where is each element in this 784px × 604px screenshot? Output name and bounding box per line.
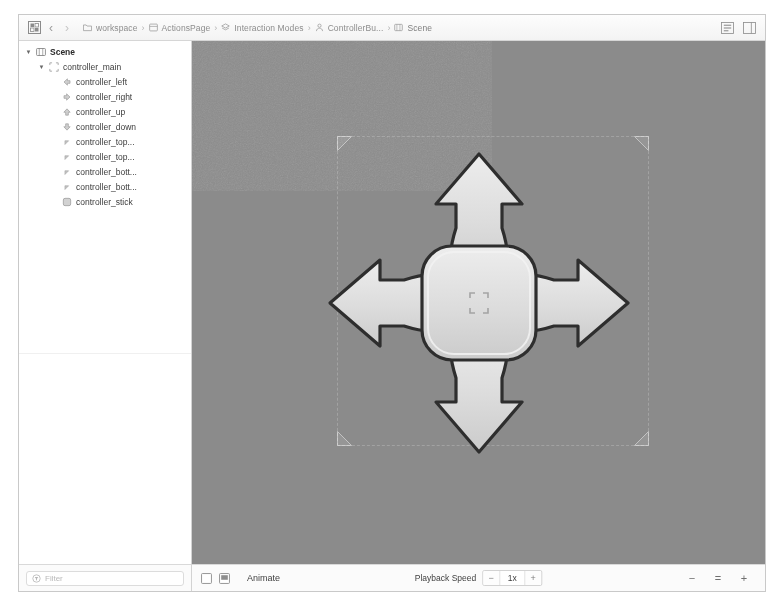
tree-item-label: controller_bott...: [76, 167, 137, 177]
screen-icon[interactable]: [218, 572, 231, 584]
zoom-out-button[interactable]: −: [679, 570, 705, 586]
grid-icon[interactable]: [25, 19, 43, 37]
tree-item-label: controller_left: [76, 77, 127, 87]
playback-speed-control: Playback Speed − 1x +: [415, 570, 542, 586]
editor-body: ▼Scene▼controller_maincontroller_leftcon…: [19, 41, 765, 591]
scene-outliner-sidebar: ▼Scene▼controller_maincontroller_leftcon…: [19, 41, 192, 591]
zoom-in-button[interactable]: +: [731, 570, 757, 586]
breadcrumb-item-actionspage[interactable]: ActionsPage: [149, 23, 211, 33]
corner-shape-icon: [60, 152, 73, 162]
arrow-up-shape-icon: [60, 107, 73, 117]
folder-icon: [83, 23, 93, 33]
corner-shape-icon: [60, 167, 73, 177]
sidebar-footer: Filter: [19, 564, 191, 591]
controller_stick: [422, 246, 536, 360]
package-icon: [149, 23, 159, 33]
top-toolbar-right: [717, 19, 759, 37]
breadcrumb-separator: ›: [307, 23, 312, 33]
filter-circle-icon: [32, 574, 41, 583]
tree-item-label: controller_main: [63, 62, 121, 72]
breadcrumb-item-controller[interactable]: ControllerBu...: [315, 23, 384, 33]
animate-label: Animate: [247, 573, 280, 583]
nav-back-button[interactable]: ‹: [43, 19, 59, 37]
breadcrumb-label: Interaction Modes: [234, 23, 303, 33]
scene-icon: [394, 23, 404, 33]
breadcrumb-label: workspace: [96, 23, 138, 33]
breadcrumb-item-interaction-modes[interactable]: Interaction Modes: [221, 23, 303, 33]
tree-item-controller_bott[interactable]: controller_bott...: [19, 179, 191, 194]
zoom-controls: − = +: [679, 570, 757, 586]
tree-item-label: controller_top...: [76, 152, 135, 162]
tree-item-controller_top[interactable]: controller_top...: [19, 134, 191, 149]
playback-speed-label: Playback Speed: [415, 573, 476, 583]
corner-shape-icon: [60, 137, 73, 147]
tree-item-label: controller_stick: [76, 197, 133, 207]
square-shape-icon: [60, 197, 73, 207]
tree-item-scene[interactable]: ▼Scene: [19, 44, 191, 59]
tree-item-label: controller_right: [76, 92, 132, 102]
nav-forward-button[interactable]: ›: [59, 19, 75, 37]
tree-item-controller_left[interactable]: controller_left: [19, 74, 191, 89]
tree-item-label: Scene: [50, 47, 75, 57]
speed-increase-button[interactable]: +: [524, 571, 541, 585]
breadcrumb-label: ActionsPage: [162, 23, 211, 33]
scene-icon: [34, 47, 47, 57]
speed-stepper: − 1x +: [482, 570, 542, 586]
tree-item-label: controller_up: [76, 107, 125, 117]
layers-icon: [221, 23, 231, 33]
editor-window: ‹ › workspace › ActionsPag: [18, 14, 766, 592]
speed-value: 1x: [500, 571, 524, 585]
breadcrumb: workspace › ActionsPage ›: [83, 23, 711, 33]
panel-list-icon[interactable]: [717, 19, 737, 37]
breadcrumb-item-scene[interactable]: Scene: [394, 23, 432, 33]
filter-input[interactable]: Filter: [26, 571, 184, 586]
tree-item-controller_right[interactable]: controller_right: [19, 89, 191, 104]
tree-item-controller_down[interactable]: controller_down: [19, 119, 191, 134]
arrow-down-shape-icon: [60, 122, 73, 132]
tree-item-label: controller_bott...: [76, 182, 137, 192]
arrow-left-shape-icon: [60, 77, 73, 87]
filter-placeholder: Filter: [45, 574, 63, 583]
tree-item-controller_top[interactable]: controller_top...: [19, 149, 191, 164]
arrow-right-shape-icon: [60, 92, 73, 102]
corner-shape-icon: [60, 182, 73, 192]
speed-decrease-button[interactable]: −: [483, 571, 500, 585]
tree-item-controller_bott[interactable]: controller_bott...: [19, 164, 191, 179]
panel-split-icon[interactable]: [739, 19, 759, 37]
tree-item-label: controller_top...: [76, 137, 135, 147]
breadcrumb-separator: ›: [386, 23, 391, 33]
animation-toggles: [200, 572, 231, 584]
breadcrumb-separator: ›: [141, 23, 146, 33]
zoom-fit-button[interactable]: =: [705, 570, 731, 586]
disclosure-triangle-icon[interactable]: ▼: [23, 49, 34, 55]
tree-item-controller_up[interactable]: controller_up: [19, 104, 191, 119]
tree-item-controller_stick[interactable]: controller_stick: [19, 194, 191, 209]
person-icon: [315, 23, 325, 33]
breadcrumb-item-workspace[interactable]: workspace: [83, 23, 138, 33]
tree-item-controller_main[interactable]: ▼controller_main: [19, 59, 191, 74]
disclosure-triangle-icon[interactable]: ▼: [36, 64, 47, 70]
empty-square-icon[interactable]: [200, 572, 213, 584]
breadcrumb-label: Scene: [407, 23, 432, 33]
tree-item-label: controller_down: [76, 122, 136, 132]
top-toolbar: ‹ › workspace › ActionsPag: [19, 15, 765, 41]
group-icon: [47, 62, 60, 72]
dpad-controller[interactable]: [314, 138, 644, 468]
breadcrumb-label: ControllerBu...: [328, 23, 384, 33]
viewport-column: Animate Playback Speed − 1x + − = +: [192, 41, 765, 591]
scene-viewport[interactable]: [192, 41, 765, 564]
bottom-toolbar: Animate Playback Speed − 1x + − = +: [192, 564, 765, 591]
scene-tree: ▼Scene▼controller_maincontroller_leftcon…: [19, 41, 191, 564]
breadcrumb-separator: ›: [213, 23, 218, 33]
